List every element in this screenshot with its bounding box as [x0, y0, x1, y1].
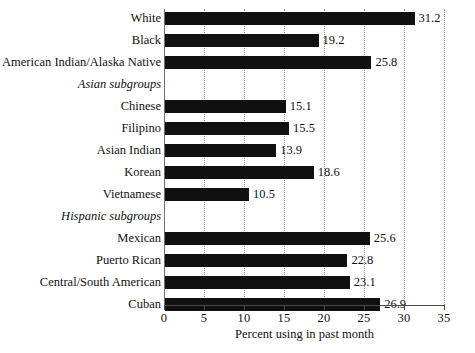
category-label: Cuban [128, 297, 161, 312]
bar [165, 12, 415, 25]
bar-row: Mexican25.6 [0, 229, 475, 251]
bar-row: Korean18.6 [0, 163, 475, 185]
category-label: Vietnamese [103, 187, 161, 202]
bar-row: American Indian/Alaska Native25.8 [0, 53, 475, 75]
bar-value-label: 13.9 [280, 143, 302, 158]
category-label: Asian subgroups [78, 77, 161, 92]
bar-row: Puerto Rican22.8 [0, 251, 475, 273]
x-tick-label-25: 25 [344, 311, 384, 325]
group-header-row: Hispanic subgroups [0, 207, 475, 229]
bar [165, 144, 276, 157]
bar-row: Black19.2 [0, 31, 475, 53]
bar [165, 188, 249, 201]
bar [165, 254, 347, 267]
category-label: Black [132, 33, 161, 48]
category-label: American Indian/Alaska Native [2, 55, 161, 70]
bar-value-label: 18.6 [318, 165, 340, 180]
bar-chart: White31.2Black19.2American Indian/Alaska… [0, 0, 475, 353]
x-tick-35 [444, 305, 445, 310]
x-tick-20 [324, 305, 325, 310]
category-label: Central/South American [40, 275, 161, 290]
x-tick-label-0: 0 [144, 311, 184, 325]
x-tick-label-20: 20 [304, 311, 344, 325]
x-tick-0 [164, 305, 165, 310]
x-tick-label-15: 15 [264, 311, 304, 325]
x-tick-label-5: 5 [184, 311, 224, 325]
group-header-row: Asian subgroups [0, 75, 475, 97]
bar-row: White31.2 [0, 9, 475, 31]
category-label: Filipino [121, 121, 161, 136]
bar [165, 56, 371, 69]
category-label: Asian Indian [97, 143, 161, 158]
category-label: Mexican [117, 231, 161, 246]
x-tick-25 [364, 305, 365, 310]
bar-value-label: 22.8 [351, 253, 373, 268]
bar-value-label: 10.5 [253, 187, 275, 202]
x-tick-label-10: 10 [224, 311, 264, 325]
bar-value-label: 23.1 [354, 275, 376, 290]
bar-value-label: 25.8 [375, 55, 397, 70]
category-label: Puerto Rican [96, 253, 161, 268]
bar [165, 276, 350, 289]
x-tick-5 [204, 305, 205, 310]
bar-row: Filipino15.5 [0, 119, 475, 141]
x-tick-label-30: 30 [384, 311, 424, 325]
x-axis-title: Percent using in past month [164, 327, 445, 341]
bar [165, 232, 370, 245]
category-label: Chinese [121, 99, 161, 114]
bar-row: Chinese15.1 [0, 97, 475, 119]
bar-row: Central/South American23.1 [0, 273, 475, 295]
x-tick-30 [404, 305, 405, 310]
x-tick-15 [284, 305, 285, 310]
category-label: Korean [124, 165, 161, 180]
bar-row: Vietnamese10.5 [0, 185, 475, 207]
bar [165, 100, 286, 113]
x-tick-label-35: 35 [424, 311, 464, 325]
bar-value-label: 31.2 [419, 11, 441, 26]
bar-value-label: 15.5 [293, 121, 315, 136]
category-label: Hispanic subgroups [61, 209, 161, 224]
bar-value-label: 19.2 [323, 33, 345, 48]
bar [165, 166, 314, 179]
x-axis-line [164, 305, 445, 306]
bar [165, 122, 289, 135]
bar [165, 34, 319, 47]
bar-value-label: 15.1 [290, 99, 312, 114]
category-label: White [130, 11, 161, 26]
bar-value-label: 25.6 [374, 231, 396, 246]
x-tick-10 [244, 305, 245, 310]
bar-row: Asian Indian13.9 [0, 141, 475, 163]
